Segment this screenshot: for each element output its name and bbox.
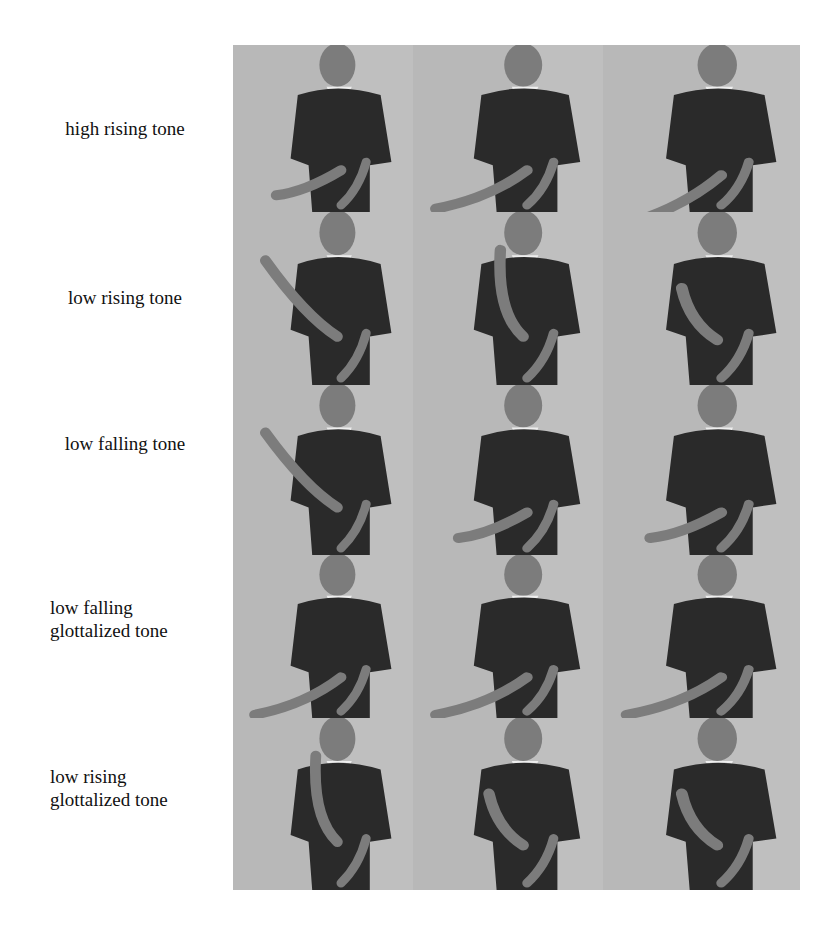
photo-frame (233, 385, 413, 555)
label-line: low falling (50, 596, 230, 619)
row-label-low-rising-glottalized: low rising glottalized tone (50, 765, 230, 811)
photo-frame (603, 555, 800, 718)
photo-grid (233, 45, 800, 890)
photo-frame (413, 718, 603, 890)
photo-frame (413, 45, 603, 212)
row-label-low-falling: low falling tone (0, 432, 230, 455)
photo-frame (603, 718, 800, 890)
photo-frame (233, 45, 413, 212)
photo-frame (233, 718, 413, 890)
photo-frame (603, 45, 800, 212)
label-line: low falling tone (65, 433, 185, 454)
row-label-low-rising: low rising tone (0, 286, 230, 309)
label-line: low rising tone (68, 287, 182, 308)
photo-frame (413, 212, 603, 385)
label-line: glottalized tone (50, 788, 230, 811)
row-label-high-rising: high rising tone (0, 117, 230, 140)
photo-frame (603, 212, 800, 385)
label-line: high rising tone (65, 118, 184, 139)
photo-frame (233, 212, 413, 385)
photo-frame (413, 555, 603, 718)
label-line: glottalized tone (50, 619, 230, 642)
photo-frame (413, 385, 603, 555)
photo-frame (233, 555, 413, 718)
label-line: low rising (50, 765, 230, 788)
photo-frame (603, 385, 800, 555)
row-label-low-falling-glottalized: low falling glottalized tone (50, 596, 230, 642)
